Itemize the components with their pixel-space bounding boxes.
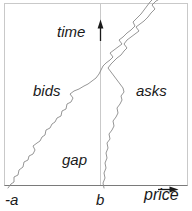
figure-canvas xyxy=(0,0,192,211)
order-book-figure: time bids asks gap -a b price xyxy=(0,0,192,211)
region-label-gap: gap xyxy=(62,152,87,167)
region-label-asks: asks xyxy=(136,83,167,98)
axis-tick-label-center: b xyxy=(96,192,104,207)
arrow-up-icon xyxy=(98,20,104,42)
axis-label-price: price xyxy=(144,187,179,203)
region-label-bids: bids xyxy=(33,83,61,98)
axis-tick-label-left: -a xyxy=(5,192,18,207)
axis-label-time: time xyxy=(57,24,85,39)
